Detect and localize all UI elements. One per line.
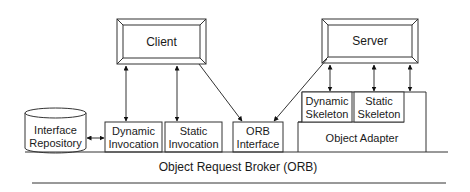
orb-interface-label-line1: ORB [246,125,270,137]
static-skeleton-box: Static Skeleton [354,92,404,122]
static-invocation-label-line2: Invocation [168,138,218,150]
dynamic-skeleton-box: Dynamic Skeleton [302,92,352,122]
interface-repository-label-line2: Repository [29,137,82,149]
static-skeleton-label-line2: Skeleton [358,108,401,120]
corba-architecture-diagram: Client Server Interface Repository Dynam… [0,0,470,192]
interface-repository-label-line1: Interface [34,124,77,136]
orb-label: Object Request Broker (ORB) [159,160,318,174]
dynamic-invocation-label-line1: Dynamic [112,125,155,137]
dynamic-invocation-box: Dynamic Invocation [105,122,162,152]
client-orb-interface-arrow [199,64,242,121]
interface-repository-cylinder: Interface Repository [25,108,86,153]
object-adapter-label: Object Adapter [326,132,399,144]
orb-interface-box: ORB Interface [233,122,283,152]
client-box: Client [117,19,206,64]
server-box: Server [322,19,418,63]
dynamic-invocation-label-line2: Invocation [108,138,158,150]
server-label: Server [352,34,387,48]
static-skeleton-label-line1: Static [365,95,393,107]
static-invocation-box: Static Invocation [165,122,222,152]
client-label: Client [146,35,177,49]
orb-interface-label-line2: Interface [237,138,280,150]
static-invocation-label-line1: Static [180,125,208,137]
dynamic-skeleton-label-line1: Dynamic [306,95,349,107]
dynamic-skeleton-label-line2: Skeleton [306,108,349,120]
